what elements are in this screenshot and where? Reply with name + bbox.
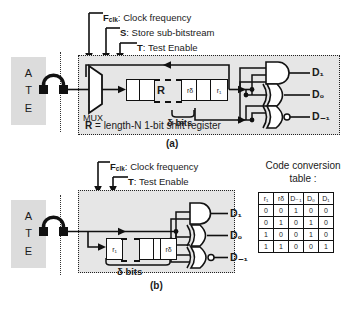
ate-probe-wire-b xyxy=(44,217,64,227)
table-cell: 0 xyxy=(289,241,304,253)
table-cell: 0 xyxy=(289,217,304,229)
table-header-r1: r₁ xyxy=(259,193,274,205)
nor-gate-a xyxy=(267,106,283,128)
register-note-rest-a: = length-N 1-bit shift register xyxy=(92,120,221,131)
xor-gate-b xyxy=(191,225,206,246)
nor-gate-b xyxy=(191,247,206,268)
table-row: 1 0 0 1 0 xyxy=(259,229,334,241)
table-cell: 1 xyxy=(304,229,319,241)
table-title-line1: Code conversion xyxy=(256,160,350,173)
table-row: 1 1 0 0 1 xyxy=(259,241,334,253)
and-gate-a xyxy=(266,62,289,84)
xor-gate-a xyxy=(267,84,283,106)
register-note-a: R = length-N 1-bit shift register xyxy=(85,121,221,131)
delta-bits-label-b: δ bits xyxy=(117,267,142,277)
register-cell-a-r1: r₁ xyxy=(210,79,228,101)
table-cell: 1 xyxy=(319,241,334,253)
code-conversion-table-title: Code conversion table : xyxy=(256,160,350,185)
shift-register-a: rδ r₁ xyxy=(126,79,229,101)
table-cell: 1 xyxy=(289,205,304,217)
table-cell: 1 xyxy=(259,241,274,253)
table-cell: 0 xyxy=(319,205,334,217)
ate-pad-left-b xyxy=(39,227,48,236)
shift-register-b: r₁ rδ xyxy=(106,238,172,259)
register-cell-b-rdelta: rδ xyxy=(160,238,177,260)
output-label-dm1-a: D₋₁ xyxy=(312,110,330,122)
table-cell: 1 xyxy=(304,217,319,229)
output-label-d1-b: D₁ xyxy=(230,207,242,219)
table-header-rdelta: rδ xyxy=(274,193,289,205)
table-cell: 1 xyxy=(259,229,274,241)
panel-a-schematic xyxy=(0,0,353,155)
and-gate-b xyxy=(190,203,211,224)
ate-pad-left-a xyxy=(39,85,48,94)
table-cell: 0 xyxy=(259,217,274,229)
mux-shape-a xyxy=(89,66,102,113)
table-cell: 0 xyxy=(289,229,304,241)
output-label-d1-a: D₁ xyxy=(312,66,324,78)
register-label-a: R xyxy=(157,85,165,96)
table-header-d0: D₀ xyxy=(304,193,319,205)
table-row: 0 1 0 1 0 xyxy=(259,217,334,229)
register-cell-a-1 xyxy=(139,79,155,101)
ate-pad-right-a xyxy=(59,85,68,94)
delta-brace-a xyxy=(172,110,194,117)
table-cell: 0 xyxy=(304,241,319,253)
panel-b-caption: (b) xyxy=(150,280,163,291)
table-cell: 0 xyxy=(304,205,319,217)
table-header-dm1: D₋₁ xyxy=(289,193,304,205)
output-label-d0-b: D₀ xyxy=(230,229,242,241)
table-cell: 0 xyxy=(259,205,274,217)
code-conversion-table: r₁ rδ D₋₁ D₀ D₁ 0 0 1 0 0 0 1 0 1 0 1 0 … xyxy=(258,192,334,253)
table-header-row: r₁ rδ D₋₁ D₀ D₁ xyxy=(259,193,334,205)
table-cell: 0 xyxy=(319,229,334,241)
panel-a-caption: (a) xyxy=(166,138,178,149)
table-title-line2: table : xyxy=(256,173,350,186)
output-label-dm1-b: D₋₁ xyxy=(230,251,248,263)
table-cell: 0 xyxy=(319,217,334,229)
table-row: 0 0 1 0 0 xyxy=(259,205,334,217)
table-cell: 1 xyxy=(274,241,289,253)
output-label-d0-a: D₀ xyxy=(312,88,324,100)
table-cell: 0 xyxy=(274,205,289,217)
ate-probe-wire-a xyxy=(44,75,64,85)
nor-bubble-b xyxy=(208,255,214,261)
table-cell: 0 xyxy=(274,229,289,241)
ate-pad-right-b xyxy=(59,227,68,236)
register-ellipsis-b xyxy=(121,238,140,262)
nor-bubble-a xyxy=(284,114,290,120)
table-cell: 1 xyxy=(274,217,289,229)
table-header-d1: D₁ xyxy=(319,193,334,205)
panel-a: Fclk: Clock frequency S: Store sub-bitst… xyxy=(0,0,353,155)
